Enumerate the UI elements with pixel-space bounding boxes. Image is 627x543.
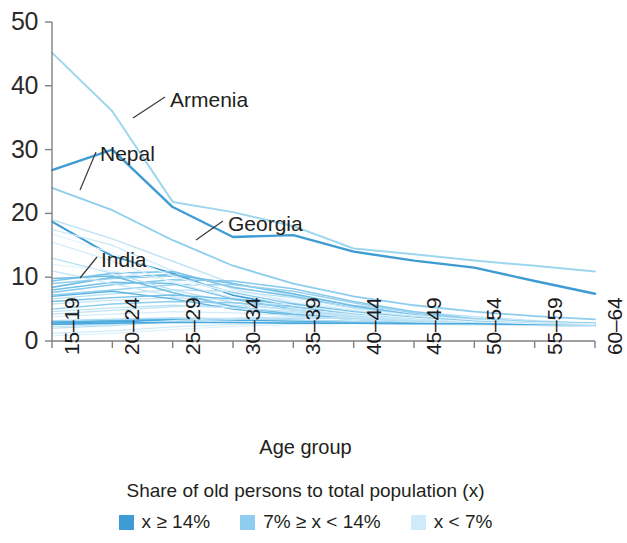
legend: x ≥ 14%7% ≥ x < 14%x < 7% — [0, 511, 611, 533]
legend-item-label: x ≥ 14% — [142, 511, 211, 533]
y-axis-tick-label: 30 — [0, 137, 38, 162]
legend-title: Share of old persons to total population… — [0, 480, 611, 502]
legend-item[interactable]: x ≥ 14% — [119, 511, 211, 533]
series-annotation-label: India — [101, 248, 147, 272]
legend-item[interactable]: 7% ≥ x < 14% — [240, 511, 381, 533]
legend-swatch-icon — [411, 515, 426, 530]
series-annotation-label: Nepal — [100, 142, 155, 166]
legend-item[interactable]: x < 7% — [411, 511, 493, 533]
x-axis-tick-label: 45–49 — [422, 298, 446, 355]
x-axis-tick-label: 30–34 — [241, 298, 265, 355]
y-axis-tick-label: 0 — [0, 328, 38, 353]
y-axis-tick-label: 40 — [0, 73, 38, 98]
annotation-leader-line — [133, 97, 165, 118]
x-axis-tick-label: 15–19 — [60, 298, 84, 355]
x-axis-tick-label: 40–44 — [362, 298, 386, 355]
legend-item-label: 7% ≥ x < 14% — [263, 511, 381, 533]
legend-swatch-icon — [119, 515, 134, 530]
x-axis-tick-label: 25–29 — [181, 298, 205, 355]
legend-swatch-icon — [240, 515, 255, 530]
x-axis-tick-label: 35–39 — [301, 298, 325, 355]
series-annotation-label: Georgia — [228, 212, 303, 236]
x-axis-tick-label: 50–54 — [482, 298, 506, 355]
x-axis-tick-label: 55–59 — [543, 298, 567, 355]
x-axis-tick-label: 60–64 — [603, 298, 627, 355]
series-layer — [52, 53, 595, 336]
legend-item-label: x < 7% — [434, 511, 493, 533]
x-axis-title: Age group — [0, 436, 611, 459]
series-annotation-label: Armenia — [170, 88, 248, 112]
y-axis-tick-label: 50 — [0, 9, 38, 34]
y-axis-tick-label: 10 — [0, 264, 38, 289]
y-axis-tick-label: 20 — [0, 200, 38, 225]
x-axis-tick-label: 20–24 — [120, 298, 144, 355]
